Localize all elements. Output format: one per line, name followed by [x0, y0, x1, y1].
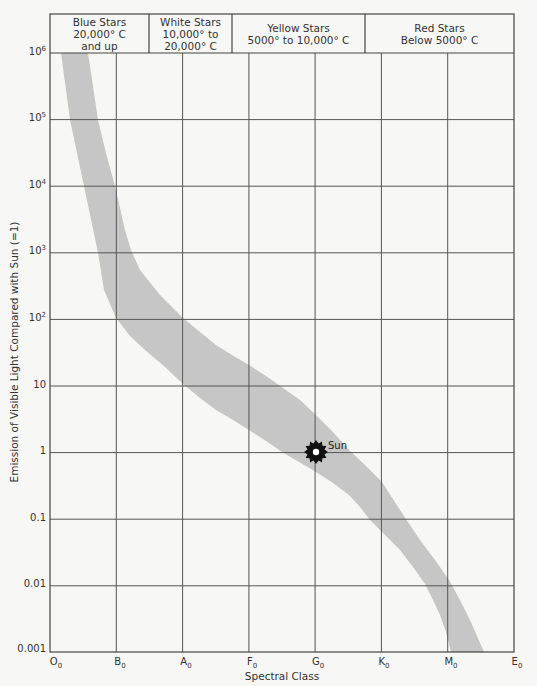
header-blue-range-cont: and up [73, 40, 127, 52]
x-axis-label: Spectral Class [245, 670, 319, 682]
x-tick-b0: B0 [114, 656, 125, 670]
x-tick-o0: O0 [50, 656, 62, 670]
y-tick-1e6: 106 [29, 45, 46, 57]
header-white-stars: White Stars 10,000° to 20,000° C [149, 14, 232, 53]
x-tick-m0: M0 [444, 656, 457, 670]
chart-canvas [0, 0, 537, 686]
header-yellow-range: 5000° to 10,000° C [248, 34, 350, 46]
y-tick-10: 10 [33, 379, 46, 390]
y-tick-1e3: 103 [29, 244, 46, 256]
y-tick-0-1: 0.1 [30, 512, 46, 523]
y-axis-label: Emission of Visible Light Compared with … [8, 222, 20, 483]
header-white-title: White Stars [160, 16, 221, 28]
y-tick-1e5: 105 [29, 111, 46, 123]
header-blue-range: 20,000° C [73, 28, 127, 40]
header-blue-stars: Blue Stars 20,000° C and up [50, 14, 149, 53]
header-white-range-cont: 20,000° C [160, 40, 221, 52]
x-tick-k0: K0 [378, 656, 389, 670]
plot-frame [50, 14, 514, 652]
header-red-stars: Red Stars Below 5000° C [365, 14, 514, 53]
y-tick-0-001: 0.001 [17, 643, 46, 654]
main-sequence-band [61, 53, 484, 652]
header-yellow-stars: Yellow Stars 5000° to 10,000° C [232, 14, 365, 53]
header-blue-title: Blue Stars [73, 16, 127, 28]
y-tick-1e2: 102 [29, 311, 46, 323]
x-tick-g0: G0 [312, 656, 324, 670]
sun-label: Sun [328, 440, 347, 451]
y-tick-1: 1 [40, 445, 46, 456]
x-tick-a0: A0 [180, 656, 191, 670]
x-tick-f0: F0 [247, 656, 257, 670]
y-tick-1e4: 104 [29, 178, 46, 190]
header-red-range: Below 5000° C [401, 34, 479, 46]
x-tick-e0: E0 [512, 656, 523, 670]
y-tick-0-01: 0.01 [24, 578, 46, 589]
header-white-range: 10,000° to [160, 28, 221, 40]
header-yellow-title: Yellow Stars [248, 22, 350, 34]
horizontal-gridlines [50, 120, 514, 586]
header-red-title: Red Stars [401, 22, 479, 34]
